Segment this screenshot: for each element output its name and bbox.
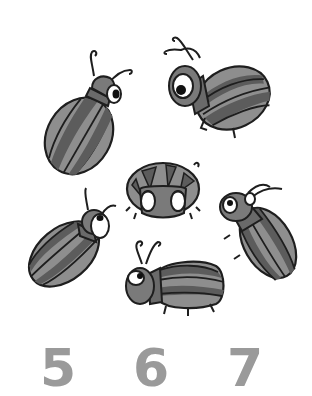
counting-worksheet: 5 6 7: [0, 0, 312, 396]
beetle-icon: [22, 184, 120, 288]
answer-choice-5[interactable]: 5: [40, 340, 76, 396]
answer-choice-6[interactable]: 6: [133, 340, 169, 396]
answer-choice-7[interactable]: 7: [227, 340, 263, 396]
beetle-icon: [118, 238, 228, 316]
beetle-icon: [155, 28, 275, 143]
beetle-icon: [122, 155, 204, 223]
answer-choices: 5 6 7: [0, 340, 312, 396]
